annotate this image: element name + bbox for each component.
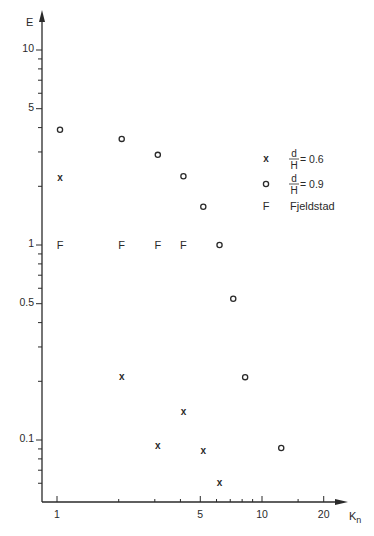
legend-marker-circle [263,181,268,186]
legend-value: = 0.9 [300,178,324,190]
data-point-circle [201,204,206,209]
x-tick-label: 1 [54,508,60,520]
legend-fraction-denominator: H [290,160,297,171]
data-points: xxxxxxFFFF [57,127,284,488]
data-point-circle [243,375,248,380]
legend-marker-cross: x [263,153,269,164]
data-point-circle [119,136,124,141]
data-point-circle [231,296,236,301]
y-axis-arrow-icon [39,10,45,22]
x-tick-label: 10 [256,508,268,520]
y-tick-label: 0.5 [19,296,34,308]
y-tick-label: 5 [28,101,34,113]
legend-fraction-numerator: d [291,173,297,184]
data-point-cross: x [119,371,125,382]
y-tick-label: 1 [28,237,34,249]
data-point-fjeldstad: F [154,239,161,251]
legend-label: Fjeldstad [290,200,335,212]
data-point-cross: x [155,440,161,451]
data-point-circle [279,445,284,450]
data-point-cross: x [217,477,223,488]
legend-fraction-denominator: H [290,185,297,196]
data-point-circle [181,174,186,179]
scatter-chart: EKn0.10.51510151020 xxxxxxFFFF xdH= 0.6d… [0,0,374,536]
y-tick-label: 0.1 [19,432,34,444]
y-axis-label: E [26,16,33,28]
legend-fraction-numerator: d [291,148,297,159]
x-tick-label: 5 [197,508,203,520]
data-point-cross: x [201,445,207,456]
data-point-fjeldstad: F [57,239,64,251]
data-point-circle [217,242,222,247]
legend-value: = 0.6 [300,153,324,165]
data-point-fjeldstad: F [118,239,125,251]
x-axis-arrow-icon [335,499,348,505]
legend-marker-fjeldstad: F [263,200,270,212]
legend: xdH= 0.6dH= 0.9FFjeldstad [263,148,335,212]
axes: EKn0.10.51510151020 [19,10,361,525]
data-point-cross: x [181,406,187,417]
data-point-circle [155,152,160,157]
x-axis-label: Kn [349,510,361,525]
data-point-cross: x [57,172,63,183]
data-point-circle [57,127,62,132]
x-tick-label: 20 [318,508,330,520]
data-point-fjeldstad: F [180,239,187,251]
y-tick-label: 10 [22,42,34,54]
